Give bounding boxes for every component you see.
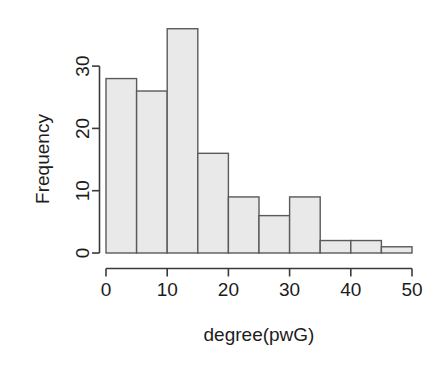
histogram-bar <box>228 197 259 253</box>
histogram-plot: 30 20 10 0 Frequency 0 10 20 30 40 50 de… <box>0 0 433 368</box>
x-axis-tick-label: 10 <box>157 279 178 300</box>
histogram-bar <box>259 216 290 253</box>
x-axis-tick-label: 0 <box>101 279 112 300</box>
plot-canvas: 30 20 10 0 Frequency 0 10 20 30 40 50 de… <box>0 0 433 368</box>
histogram-bar <box>381 247 412 253</box>
x-axis-tick-label: 30 <box>279 279 300 300</box>
histogram-bar <box>167 29 198 253</box>
y-axis-tick-label: 10 <box>72 180 93 201</box>
histogram-bar <box>198 153 229 253</box>
y-axis-tick-label: 0 <box>72 248 93 259</box>
y-axis-tick-label: 30 <box>72 56 93 77</box>
histogram-bar <box>106 79 137 253</box>
y-axis-title: Frequency <box>32 114 53 204</box>
x-axis-tick-label: 50 <box>401 279 422 300</box>
histogram-bar <box>320 241 351 253</box>
histogram-bar <box>290 197 321 253</box>
histogram-bar <box>351 241 382 253</box>
y-axis-tick-label: 20 <box>72 118 93 139</box>
histogram-bar <box>137 91 168 253</box>
x-axis-title: degree(pwG) <box>204 324 315 345</box>
x-axis-tick-label: 20 <box>218 279 239 300</box>
x-axis-tick-label: 40 <box>340 279 361 300</box>
